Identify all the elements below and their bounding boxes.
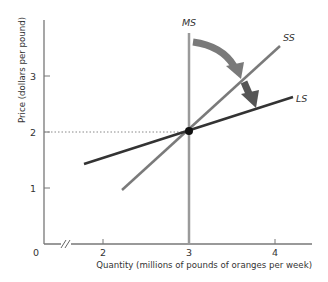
x-tick-label-2: 2	[100, 247, 106, 258]
axis-break-icon	[61, 240, 71, 248]
chart-canvas: 3 2 1 0 2 3 4 Quantity (millions of poun…	[0, 0, 328, 282]
x-tick-label-3: 3	[186, 247, 192, 258]
x-tick-label-4: 4	[272, 247, 278, 258]
supply-chart: 3 2 1 0 2 3 4 Quantity (millions of poun…	[0, 0, 328, 282]
y-tick-label-3: 3	[30, 71, 36, 82]
y-axis-title: Price (dollars per pound)	[17, 17, 27, 123]
y-tick-label-2: 2	[30, 127, 36, 138]
x-axis-title: Quantity (millions of pounds of oranges …	[96, 260, 312, 270]
ms-label: MS	[182, 17, 196, 28]
curved-arrow-icon	[193, 42, 244, 79]
ss-label: SS	[283, 32, 295, 43]
ls-label: LS	[296, 93, 307, 104]
ss-curve	[122, 46, 280, 190]
y-tick-label-1: 1	[30, 183, 36, 194]
equilibrium-point	[185, 127, 193, 135]
origin-label: 0	[33, 247, 39, 258]
down-arrow-icon	[241, 82, 259, 108]
